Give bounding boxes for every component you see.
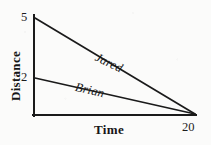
distance-time-chart: 5 2 20 Time Distance Jared Brian [0, 0, 211, 145]
series-line-brian [35, 78, 195, 114]
y-axis-title: Distance [8, 43, 24, 109]
y-axis-tick-label-5: 5 [21, 11, 27, 24]
x-axis-title: Time [94, 122, 124, 138]
x-axis-tick-label-20: 20 [182, 121, 195, 134]
